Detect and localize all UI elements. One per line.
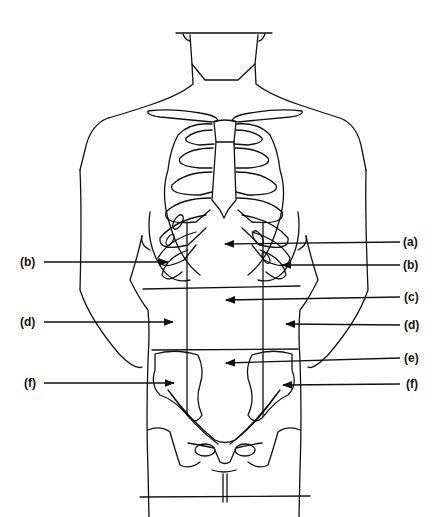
label-f-right: (f)	[406, 377, 418, 391]
region-lines	[143, 222, 300, 415]
label-c: (c)	[404, 290, 419, 304]
torso-diagram	[0, 0, 447, 517]
head-outline	[80, 33, 366, 170]
sternum	[212, 120, 236, 218]
label-b-right: (b)	[403, 258, 418, 272]
torso-outline	[80, 170, 368, 517]
label-e: (e)	[404, 351, 419, 365]
label-d-left: (d)	[20, 315, 35, 329]
label-f-left: (f)	[24, 376, 36, 390]
label-d-right: (d)	[404, 318, 419, 332]
label-arrows	[44, 242, 400, 385]
label-a: (a)	[403, 235, 418, 249]
rib-cage-right	[234, 124, 299, 281]
label-b-left: (b)	[20, 255, 35, 269]
rib-cage-left	[149, 124, 214, 281]
pelvis	[140, 351, 310, 502]
